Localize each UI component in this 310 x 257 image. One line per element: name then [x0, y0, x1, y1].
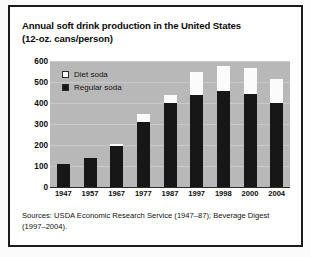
bar-group-1957[interactable] [84, 158, 97, 187]
bar-segment-regular-1947[interactable] [57, 164, 70, 187]
y-tick-0: 0 [43, 183, 48, 192]
bar-group-1947[interactable] [57, 164, 70, 187]
x-tick-1997: 1997 [188, 189, 205, 198]
bar-segment-regular-1998[interactable] [217, 91, 230, 187]
x-tick-2000: 2000 [242, 189, 259, 198]
bar-segment-regular-1957[interactable] [84, 158, 97, 187]
bar-segment-diet-2004[interactable] [270, 79, 283, 103]
bar-group-1998[interactable] [217, 66, 230, 187]
x-tick-1998: 1998 [215, 189, 232, 198]
chart-title-line-2: (12-oz. cans/person) [22, 33, 290, 46]
bar-segment-diet-1998[interactable] [217, 66, 230, 91]
y-axis: 0100200300400500600 [18, 61, 48, 187]
bar-segment-regular-2004[interactable] [270, 103, 283, 187]
bar-segment-regular-1997[interactable] [190, 95, 203, 187]
chart-legend: Diet soda Regular soda [62, 69, 122, 95]
x-tick-1987: 1987 [162, 189, 179, 198]
x-tick-1967: 1967 [108, 189, 125, 198]
bar-segment-regular-1977[interactable] [137, 122, 150, 187]
bar-segment-regular-1967[interactable] [110, 146, 123, 187]
source-note-line-2: (1997–2004). [22, 222, 294, 233]
x-axis: 194719571967197719871997199820002004 [50, 189, 295, 203]
legend-swatch-regular-soda-icon [62, 84, 69, 91]
chart-figure: Annual soft drink production in the Unit… [0, 0, 310, 257]
bar-segment-diet-1997[interactable] [190, 72, 203, 95]
bar-segment-diet-1977[interactable] [137, 114, 150, 122]
legend-item-diet-soda: Diet soda [62, 69, 122, 80]
x-tick-1947: 1947 [55, 189, 72, 198]
bar-group-1997[interactable] [190, 72, 203, 187]
bar-group-1967[interactable] [110, 144, 123, 187]
y-tick-600: 600 [34, 57, 48, 66]
legend-swatch-diet-soda-icon [62, 71, 69, 78]
bar-segment-regular-1987[interactable] [164, 103, 177, 187]
y-tick-400: 400 [34, 99, 48, 108]
bar-group-1977[interactable] [137, 114, 150, 187]
source-note: Sources: USDA Economic Research Service … [22, 211, 294, 232]
source-note-line-1: Sources: USDA Economic Research Service … [22, 211, 294, 222]
legend-label-diet-soda: Diet soda [74, 70, 108, 79]
legend-item-regular-soda: Regular soda [62, 82, 122, 93]
chart-title: Annual soft drink production in the Unit… [22, 20, 290, 45]
bar-segment-regular-2000[interactable] [244, 94, 257, 187]
y-tick-500: 500 [34, 78, 48, 87]
bar-group-1987[interactable] [164, 95, 177, 187]
y-tick-300: 300 [34, 120, 48, 129]
bar-segment-diet-2000[interactable] [244, 68, 257, 93]
x-axis-baseline [50, 187, 290, 188]
bar-segment-diet-1987[interactable] [164, 95, 177, 103]
bar-group-2000[interactable] [244, 68, 257, 187]
y-tick-100: 100 [34, 162, 48, 171]
x-tick-1957: 1957 [82, 189, 99, 198]
x-tick-2004: 2004 [268, 189, 285, 198]
x-tick-1977: 1977 [135, 189, 152, 198]
bar-group-2004[interactable] [270, 79, 283, 187]
chart-title-line-1: Annual soft drink production in the Unit… [22, 20, 290, 33]
y-tick-200: 200 [34, 141, 48, 150]
legend-label-regular-soda: Regular soda [74, 83, 122, 92]
